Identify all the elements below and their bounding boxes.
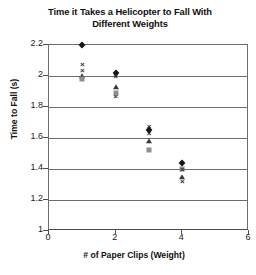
chart-title: Time it Takes a Helicopter to Fall With … (14, 6, 246, 29)
chart-title-line-1: Time it Takes a Helicopter to Fall With (14, 6, 246, 18)
gridline-y-1.2 (49, 200, 247, 201)
gridline-y-1.4 (49, 169, 247, 170)
gridline-y-1.8 (49, 107, 247, 108)
data-point-cross-x3-y1.63[interactable]: × (146, 130, 153, 137)
data-point-cross-x2-y1.87[interactable]: × (112, 93, 119, 100)
y-tick-label-1.4: 1.4 (3, 163, 43, 172)
chart-container: Time it Takes a Helicopter to Fall With … (0, 0, 256, 275)
y-tick-label-1.8: 1.8 (3, 101, 43, 110)
y-tick-label-2.2: 2.2 (3, 39, 43, 48)
data-point-triangle-x2-y1.93[interactable] (113, 84, 119, 89)
data-point-square-x1-y1.98[interactable] (80, 77, 85, 82)
y-tick-label-1.6: 1.6 (3, 132, 43, 141)
x-tick-label-0: 0 (37, 233, 59, 242)
x-tick-label-2: 2 (104, 233, 126, 242)
data-point-triangle-x3-y1.58[interactable] (146, 138, 152, 143)
data-point-cross-x4-y1.32[interactable]: × (179, 178, 186, 185)
data-point-cross-x1-y2.04[interactable]: × (79, 66, 86, 73)
data-point-square-x3-y1.52[interactable] (147, 148, 152, 153)
data-point-cross-x2-y2[interactable]: × (112, 73, 119, 80)
x-tick-mark-0 (48, 230, 49, 234)
y-tick-label-1.2: 1.2 (3, 194, 43, 203)
data-point-diamond-x1-y2.2[interactable] (79, 41, 86, 48)
data-point-cross-x4-y1.4[interactable]: × (179, 166, 186, 173)
x-axis-title: # of Paper Clips (Weight) (20, 250, 248, 260)
x-tick-mark-2 (115, 230, 116, 234)
x-tick-mark-4 (181, 230, 182, 234)
x-tick-label-4: 4 (170, 233, 192, 242)
x-tick-label-6: 6 (237, 233, 256, 242)
x-tick-mark-6 (248, 230, 249, 234)
y-tick-label-2: 2 (3, 70, 43, 79)
chart-title-line-2: Different Weights (14, 18, 246, 30)
plot-area: ×××××××× (48, 44, 248, 230)
